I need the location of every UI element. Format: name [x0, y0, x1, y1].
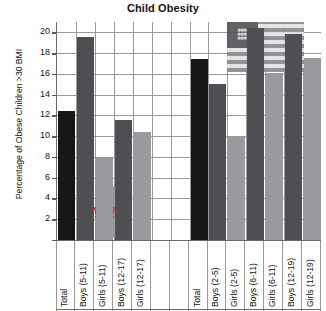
- plot-inner: 🍁✱✱✱✱✱✱✱✱✱✱✱✱: [57, 22, 321, 240]
- bar-girls: [134, 132, 151, 240]
- y-tick-label: 4: [28, 193, 50, 202]
- x-axis-label-text: Boys (12-19): [286, 258, 296, 307]
- x-axis-label-text: Boys (12-17): [116, 258, 126, 307]
- y-tick-label: 14: [28, 90, 50, 99]
- bar-girls: [304, 58, 321, 240]
- chart-title: Child Obesity: [0, 2, 326, 14]
- y-tick-label: 18: [28, 48, 50, 57]
- bar-total: [58, 111, 75, 240]
- bar-boys: [77, 37, 94, 240]
- x-axis-label-total: Total: [189, 241, 208, 311]
- x-axis-label-text: Total: [59, 289, 69, 307]
- x-axis-label-boys-12-17: Boys (12-17): [113, 241, 132, 311]
- bar-boys: [115, 120, 132, 240]
- y-axis-title: Percentage of Obese Children >30 BMI: [14, 9, 24, 239]
- plot-area: 🍁✱✱✱✱✱✱✱✱✱✱✱✱: [56, 22, 321, 240]
- x-axis-label-girls-5-11: Girls (5-11): [94, 241, 113, 311]
- bar-girls: [228, 137, 245, 240]
- bar-boys: [285, 34, 302, 240]
- x-axis-label-text: Total: [192, 289, 202, 307]
- x-axis-label-text: Boys (6-11): [248, 263, 258, 307]
- x-axis-label-empty: [151, 241, 170, 311]
- x-axis-label-girls-6-11: Girls (6-11): [264, 241, 283, 311]
- chart-container: Child Obesity Percentage of Obese Childr…: [0, 0, 326, 311]
- y-tick-label: 20: [28, 27, 50, 36]
- x-axis-label-empty: [170, 241, 189, 311]
- y-tick-label: 8: [28, 152, 50, 161]
- gridline-vertical: [171, 22, 172, 240]
- x-axis-label-text: Girls (12-19): [305, 259, 315, 307]
- bar-boys: [209, 84, 226, 240]
- gridline-vertical: [152, 22, 153, 240]
- x-axis-label-boys-6-11: Boys (6-11): [245, 241, 264, 311]
- x-axis-bottom-rule: [56, 309, 321, 310]
- bar-total: [191, 59, 208, 240]
- x-axis-label-text: Girls (6-11): [267, 265, 277, 307]
- y-tick-label: 6: [28, 173, 50, 182]
- bar-girls: [96, 158, 113, 240]
- x-axis-label-text: Boys (2-5): [210, 267, 220, 307]
- x-axis-label-text: Girls (12-17): [135, 259, 145, 307]
- x-axis-label-boys-2-5: Boys (2-5): [207, 241, 226, 311]
- x-axis-label-text: Girls (2-5): [229, 269, 239, 307]
- x-axis-label-girls-2-5: Girls (2-5): [226, 241, 245, 311]
- x-axis-label-text: Boys (5-11): [78, 263, 88, 307]
- y-tick-label: 2: [28, 214, 50, 223]
- y-tick-label: 16: [28, 69, 50, 78]
- y-tick-label: 10: [28, 131, 50, 140]
- x-axis-label-girls-12-17: Girls (12-17): [132, 241, 151, 311]
- bar-boys: [247, 28, 264, 240]
- x-axis-label-boys-5-11: Boys (5-11): [75, 241, 94, 311]
- x-axis-label-band: TotalBoys (5-11)Girls (5-11)Boys (12-17)…: [56, 240, 321, 310]
- x-axis-label-text: Girls (5-11): [97, 265, 107, 307]
- x-axis-label-boys-12-19: Boys (12-19): [283, 241, 302, 311]
- y-tick-label: 12: [28, 110, 50, 119]
- bar-girls: [266, 73, 283, 240]
- x-axis-label-girls-12-19: Girls (12-19): [302, 241, 321, 311]
- x-axis-label-total: Total: [56, 241, 75, 311]
